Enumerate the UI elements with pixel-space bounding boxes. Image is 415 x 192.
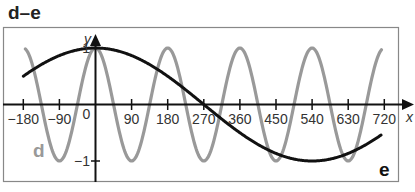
panel-title: d–e [8, 2, 41, 23]
curve-label-d: d [33, 140, 45, 161]
x-tick-label: 540 [300, 111, 324, 127]
x-tick-label: 360 [228, 111, 252, 127]
x-tick-label: −180 [8, 111, 40, 127]
x-tick-label: −90 [48, 111, 72, 127]
chart-svg: d–e x −180−90090180270360450540630720 y … [0, 0, 415, 192]
y-tick-label: −1 [74, 153, 90, 169]
x-tick-label: 90 [124, 111, 140, 127]
x-tick-label: 450 [264, 111, 288, 127]
x-axis-label: x [405, 109, 414, 125]
y-axis-arrow-icon [90, 34, 101, 46]
y-tick-label: 1 [82, 40, 90, 56]
x-tick-label: 270 [192, 111, 216, 127]
curve-label-e: e [379, 159, 390, 180]
x-tick-label: 720 [373, 111, 397, 127]
x-tick-label: 0 [83, 106, 91, 122]
x-tick-label: 630 [337, 111, 361, 127]
x-tick-label: 180 [156, 111, 180, 127]
x-axis: x −180−90090180270360450540630720 [3, 99, 414, 127]
